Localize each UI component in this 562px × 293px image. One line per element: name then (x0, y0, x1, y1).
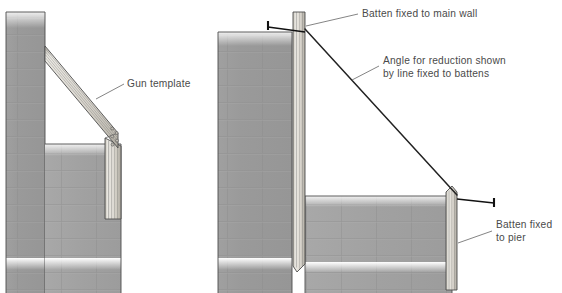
angle-for-reduction-label-line1: Angle for reduction shown (383, 55, 506, 66)
angle-for-reduction-label-line2: by line fixed to battens (383, 68, 489, 79)
batten-pier-label-line1: Batten fixed (496, 219, 552, 230)
right-main-wall (218, 32, 292, 293)
gun-template-label-text: Gun template (127, 78, 191, 89)
batten-fixed-to-pier (446, 186, 457, 290)
gun-template-vertical-leg (105, 138, 121, 219)
left-main-wall (6, 12, 45, 293)
construction-detail-svg: Gun template (0, 0, 562, 293)
diagram-canvas: Gun template (0, 0, 562, 293)
right-pier-wall (305, 196, 452, 293)
batten-pier-label-line2: to pier (496, 232, 526, 243)
batten-main-wall-label-text: Batten fixed to main wall (362, 8, 478, 19)
batten-fixed-to-main-wall (293, 12, 305, 272)
